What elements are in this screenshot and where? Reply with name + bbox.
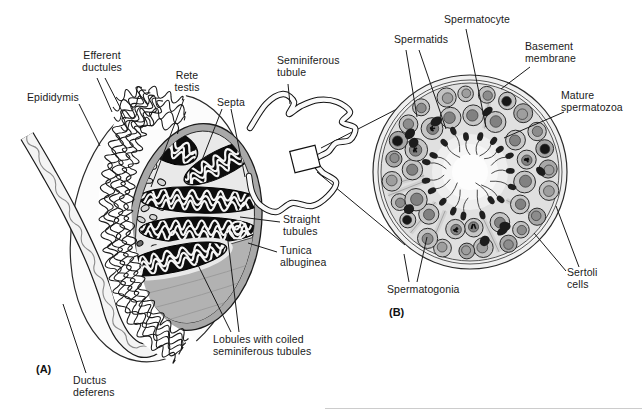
label-seminiferous-tubule: Seminiferous tubule	[277, 54, 339, 79]
cell-nucleus	[515, 199, 525, 209]
cell-nucleus	[483, 91, 492, 100]
cell-nucleus	[444, 112, 456, 124]
cell-nucleus	[540, 144, 550, 154]
panel-a-letter: (A)	[36, 363, 51, 375]
label-tunica-albuginea: Tunica albuginea	[280, 244, 326, 269]
label-lobules: Lobules with coiled seminiferous tubules	[213, 333, 311, 358]
cell-nucleus	[392, 136, 402, 146]
figure-canvas: Efferent ductules Epididymis Rete testis…	[0, 0, 643, 414]
cell-nucleus	[403, 215, 412, 224]
cell-nucleus	[510, 135, 521, 146]
cell-nucleus	[520, 175, 532, 187]
leader-line	[97, 78, 112, 112]
cell-nucleus	[422, 233, 433, 244]
panel-b-cross-section	[373, 75, 567, 269]
cell-nucleus	[396, 198, 405, 207]
label-straight-tubules: Straight tubules	[283, 213, 320, 238]
leader-line	[63, 304, 86, 373]
cell-nucleus	[411, 193, 423, 205]
cell-nucleus	[467, 110, 478, 121]
cell-nucleus	[403, 119, 413, 129]
cell-nucleus	[462, 246, 471, 255]
cell-nucleus	[424, 209, 435, 220]
label-sertoli-cells: Sertoli cells	[567, 266, 597, 291]
leader-line	[79, 104, 100, 146]
cell-nucleus	[437, 242, 447, 252]
label-rete-testis: Rete testis	[168, 69, 206, 94]
cell-nucleus	[386, 175, 397, 186]
cell-nucleus	[442, 93, 453, 104]
cell-nucleus	[531, 211, 541, 221]
cell-nucleus	[517, 109, 528, 120]
label-efferent-ductules: Efferent ductules	[77, 49, 127, 74]
label-spermatocyte: Spermatocyte	[444, 13, 510, 25]
cell-nucleus	[517, 225, 526, 234]
cell-nucleus	[390, 153, 399, 162]
label-spermatogonia: Spermatogonia	[387, 283, 460, 295]
cell-nucleus	[468, 222, 478, 232]
label-ductus-deferens: Ductus deferens	[73, 374, 115, 399]
cell-nucleus	[504, 240, 514, 250]
lumen	[452, 154, 488, 190]
cell-nucleus	[544, 186, 555, 197]
cell-nucleus	[502, 97, 512, 107]
label-septa: Septa	[217, 96, 245, 108]
label-basement-membrane: Basement membrane	[525, 40, 576, 65]
cell-nucleus	[407, 164, 418, 175]
label-mature-spermatozoa: Mature spermatozoa	[561, 89, 623, 114]
cell-nucleus	[532, 126, 542, 136]
leader-line	[534, 233, 566, 271]
leader-line	[556, 206, 579, 267]
cell-nucleus	[544, 165, 554, 175]
label-epididymis: Epididymis	[27, 91, 79, 103]
cell-nucleus	[462, 89, 471, 98]
cell-nucleus	[490, 116, 502, 128]
chromosome-figure	[430, 128, 435, 129]
leader-line	[404, 254, 409, 282]
panel-b-letter: (B)	[389, 306, 404, 318]
label-spermatids: Spermatids	[394, 33, 448, 45]
cell-nucleus	[417, 103, 427, 113]
